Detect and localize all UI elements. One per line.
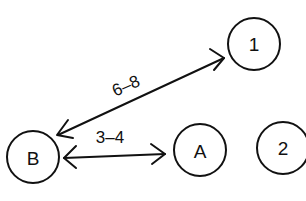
node-1: 1 <box>228 18 280 70</box>
node-label: 1 <box>249 34 260 55</box>
node-2: 2 <box>257 122 306 174</box>
edge-label-b-1: 6–8 <box>109 72 143 101</box>
node-b: B <box>7 131 59 183</box>
diagram-canvas: 6–8 3–4 1 B A 2 <box>0 0 306 201</box>
node-label: A <box>194 141 207 162</box>
edge-label-b-a: 3–4 <box>96 128 124 147</box>
node-label: 2 <box>278 138 289 159</box>
node-a: A <box>174 124 226 176</box>
edge-b-a-line <box>64 154 165 158</box>
node-label: B <box>27 148 40 169</box>
edge-b-a: 3–4 <box>64 128 165 169</box>
arrowhead-right-icon <box>210 49 224 70</box>
